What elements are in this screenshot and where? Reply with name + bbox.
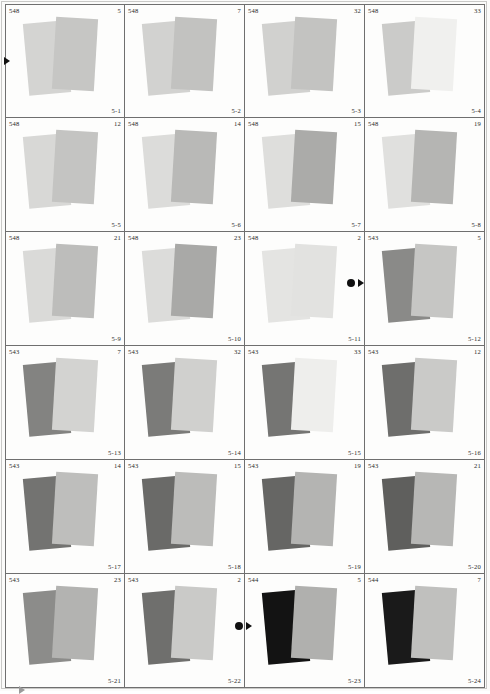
patch-pair: [365, 5, 484, 117]
patch-cell[interactable]: 548145-6: [125, 118, 245, 232]
patch-cell[interactable]: 54375-13: [5, 346, 125, 460]
patch-right: [291, 17, 337, 91]
patch-right: [411, 244, 457, 318]
patch-pair: [6, 346, 124, 459]
patch-pair: [245, 118, 364, 231]
patch-cell[interactable]: 548215-9: [5, 232, 125, 346]
patch-right: [291, 358, 337, 432]
patch-grid: 54855-154875-2548325-3548335-4548125-554…: [5, 4, 485, 688]
patch-cell[interactable]: 548235-10: [125, 232, 245, 346]
patch-right: [291, 472, 337, 546]
patch-cell[interactable]: 54825-11: [245, 232, 365, 346]
left-edge-triangle-icon: [4, 57, 10, 65]
patch-right: [52, 472, 98, 546]
patch-right: [291, 244, 337, 318]
row6-triangle-icon: [246, 622, 252, 630]
patch-pair: [365, 346, 484, 459]
patch-right: [411, 130, 457, 204]
row3-dot-icon: [347, 279, 355, 287]
patch-cell[interactable]: 54355-12: [365, 232, 485, 346]
patch-pair: [365, 118, 484, 231]
patch-pair: [125, 460, 244, 573]
row3-triangle-icon: [358, 279, 364, 287]
patch-pair: [245, 574, 364, 687]
patch-right: [171, 17, 217, 91]
patch-right: [52, 358, 98, 432]
patch-right: [52, 586, 98, 660]
patch-right: [171, 244, 217, 318]
patch-cell[interactable]: 543325-14: [125, 346, 245, 460]
patch-cell[interactable]: 543155-18: [125, 460, 245, 574]
patch-cell[interactable]: 543145-17: [5, 460, 125, 574]
patch-cell[interactable]: 543215-20: [365, 460, 485, 574]
patch-right: [411, 586, 457, 660]
patch-cell[interactable]: 54325-22: [125, 574, 245, 688]
row6-dot-icon: [235, 622, 243, 630]
patch-cell[interactable]: 543125-16: [365, 346, 485, 460]
patch-right: [291, 130, 337, 204]
patch-cell[interactable]: 54455-23: [245, 574, 365, 688]
bottom-edge-triangle-icon: [19, 686, 25, 694]
patch-cell[interactable]: 548195-8: [365, 118, 485, 232]
patch-pair: [365, 460, 484, 573]
patch-right: [171, 472, 217, 546]
patch-cell[interactable]: 548125-5: [5, 118, 125, 232]
patch-pair: [125, 346, 244, 459]
patch-right: [171, 358, 217, 432]
patch-right: [52, 17, 98, 91]
patch-cell[interactable]: 548335-4: [365, 4, 485, 118]
patch-pair: [125, 232, 244, 345]
patch-right: [411, 17, 457, 91]
patch-pair: [245, 346, 364, 459]
patch-pair: [245, 460, 364, 573]
patch-pair: [365, 232, 484, 345]
patch-right: [411, 358, 457, 432]
patch-cell[interactable]: 548155-7: [245, 118, 365, 232]
patch-cell[interactable]: 54875-2: [125, 4, 245, 118]
patch-pair: [365, 574, 484, 687]
patch-right: [291, 586, 337, 660]
patch-pair: [245, 5, 364, 117]
patch-pair: [6, 5, 124, 117]
patch-right: [171, 130, 217, 204]
patch-pair: [6, 118, 124, 231]
patch-cell[interactable]: 543195-19: [245, 460, 365, 574]
patch-pair: [125, 5, 244, 117]
patch-pair: [245, 232, 364, 345]
patch-pair: [6, 232, 124, 345]
patch-pair: [125, 118, 244, 231]
patch-cell[interactable]: 543335-15: [245, 346, 365, 460]
patch-pair: [6, 574, 124, 687]
patch-right: [171, 586, 217, 660]
patch-cell[interactable]: 54855-1: [5, 4, 125, 118]
patch-pair: [6, 460, 124, 573]
patch-right: [52, 244, 98, 318]
patch-cell[interactable]: 543235-21: [5, 574, 125, 688]
patch-cell[interactable]: 54475-24: [365, 574, 485, 688]
patch-right: [411, 472, 457, 546]
patch-right: [52, 130, 98, 204]
patch-pair: [125, 574, 244, 687]
patch-cell[interactable]: 548325-3: [245, 4, 365, 118]
